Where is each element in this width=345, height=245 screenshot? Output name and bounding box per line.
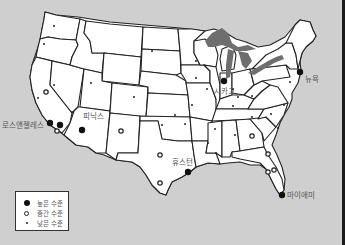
legend-item-medium: 중간 수준: [22, 208, 63, 218]
state-north-dakota: [142, 27, 180, 51]
legend-label-high: 높은 수준: [37, 198, 63, 208]
open-circle-icon: [22, 211, 31, 216]
legend: 높은 수준 중간 수준 낮은 수준: [15, 191, 69, 231]
state-wyoming: [102, 53, 141, 85]
state-iowa: [181, 65, 210, 83]
filled-circle-icon: [22, 200, 31, 206]
label-new-york: 뉴욕: [305, 75, 319, 84]
marker-los-angeles: [47, 120, 53, 126]
label-los-angeles: 로스앤젤레스: [2, 120, 44, 130]
marker-new-york: [297, 69, 303, 75]
marker-chicago: [221, 78, 227, 84]
legend-label-low: 낮은 수준: [37, 218, 63, 228]
marker-houston: [185, 169, 191, 175]
marker-miami: [279, 192, 285, 198]
small-dot-icon: [22, 222, 31, 224]
marker-phoenix: [79, 127, 85, 133]
state-mississippi: [206, 121, 222, 157]
legend-item-low: 낮은 수준: [22, 218, 63, 228]
state-montana: [84, 21, 143, 57]
state-kansas: [146, 93, 190, 117]
label-miami: 마이애미: [287, 190, 315, 200]
label-houston: 휴스턴: [172, 157, 193, 167]
label-phoenix: 피닉스: [83, 112, 104, 121]
state-colorado: [110, 83, 148, 117]
legend-item-high: 높은 수준: [22, 198, 63, 208]
legend-label-medium: 중간 수준: [37, 208, 63, 218]
state-south-dakota: [141, 49, 181, 75]
label-chicago: 시카고: [214, 87, 235, 96]
